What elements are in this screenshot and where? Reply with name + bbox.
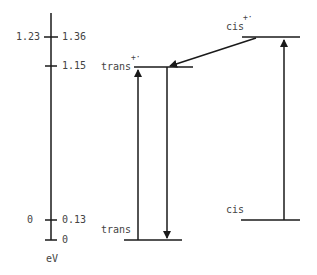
level-superscript: +· — [243, 13, 253, 22]
level-label: trans — [101, 224, 131, 235]
arrow-cis-to-trans — [170, 38, 256, 66]
tick-label-right: 1.15 — [62, 60, 86, 71]
level-cis-cation: cis +· — [226, 13, 300, 37]
level-label: cis — [226, 21, 244, 32]
level-cis-neutral: cis — [226, 204, 300, 220]
tick-label-right: 1.36 — [62, 31, 86, 42]
level-label: cis — [226, 204, 244, 215]
level-superscript: +· — [131, 53, 141, 62]
level-trans-neutral: trans — [101, 224, 182, 240]
tick-label-right: 0 — [62, 234, 68, 245]
level-label: trans — [101, 61, 131, 72]
axis-unit-label: eV — [46, 253, 58, 264]
tick-label-left: 1.23 — [16, 31, 40, 42]
energy-axis: 1.23 1.36 1.15 0 0.13 0 eV — [16, 13, 86, 264]
energy-diagram: 1.23 1.36 1.15 0 0.13 0 eV trans +· cis … — [0, 0, 317, 275]
tick-label-right: 0.13 — [62, 214, 86, 225]
tick-label-left: 0 — [27, 214, 33, 225]
